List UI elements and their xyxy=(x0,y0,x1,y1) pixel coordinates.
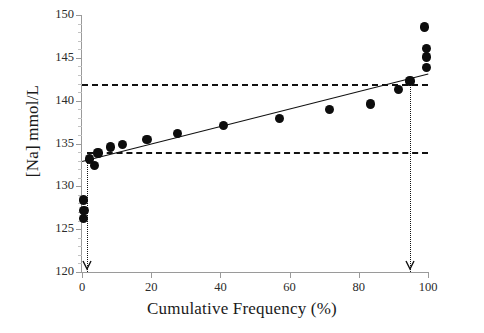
y-tick-label: 130 xyxy=(40,178,74,193)
left-arrow-icon xyxy=(82,260,92,271)
x-tick-label: 0 xyxy=(62,280,102,295)
y-tick-label: 145 xyxy=(40,50,74,65)
data-point xyxy=(93,148,102,157)
y-tick-label: 125 xyxy=(40,221,74,236)
reference-line-lower xyxy=(87,152,428,154)
data-point xyxy=(422,63,431,72)
y-tick-label: 135 xyxy=(40,136,74,151)
x-tick xyxy=(151,272,152,278)
data-point xyxy=(79,195,88,204)
data-point xyxy=(142,135,151,144)
data-point xyxy=(118,140,127,149)
chart-figure: [Na] mmol/L Cumulative Frequency (%) 150… xyxy=(0,0,484,333)
data-point xyxy=(394,85,403,94)
data-point xyxy=(420,22,429,31)
x-tick xyxy=(359,272,360,278)
y-tick-label: 120 xyxy=(40,264,74,279)
x-tick-label: 100 xyxy=(408,280,448,295)
data-point xyxy=(325,105,334,114)
reference-line-upper xyxy=(82,84,428,86)
data-point xyxy=(219,121,228,130)
x-tick-label: 20 xyxy=(131,280,171,295)
data-point xyxy=(422,52,431,61)
x-tick-label: 40 xyxy=(200,280,240,295)
x-tick-label: 80 xyxy=(339,280,379,295)
marker-line-right xyxy=(410,84,411,272)
plot-area xyxy=(82,15,428,272)
x-axis-line xyxy=(81,272,429,273)
y-tick-label: 150 xyxy=(40,7,74,22)
x-tick xyxy=(82,272,83,278)
data-point xyxy=(405,76,414,85)
x-tick xyxy=(220,272,221,278)
data-point xyxy=(106,142,115,151)
data-point xyxy=(173,129,182,138)
regression-line xyxy=(82,74,428,162)
data-point xyxy=(275,114,284,123)
right-arrow-icon xyxy=(405,260,415,271)
data-point xyxy=(422,44,431,53)
x-tick xyxy=(290,272,291,278)
x-tick xyxy=(428,272,429,278)
y-tick-label: 140 xyxy=(40,93,74,108)
data-point xyxy=(366,99,375,108)
x-tick-label: 60 xyxy=(270,280,310,295)
x-axis-title: Cumulative Frequency (%) xyxy=(0,299,484,319)
